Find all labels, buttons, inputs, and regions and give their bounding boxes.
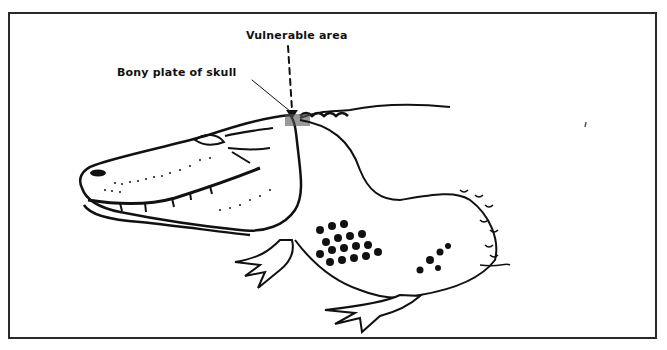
alligator-head: [80, 115, 301, 231]
front-foot: [235, 240, 293, 288]
rear-foot: [325, 295, 420, 332]
vulnerable-area-arrow-line: [288, 46, 292, 110]
bony-plate-leader-line: [252, 80, 291, 112]
alligator-illustration: [0, 0, 667, 350]
bony-plate-label: Bony plate of skull: [117, 66, 237, 79]
vulnerable-area-label: Vulnerable area: [246, 29, 348, 42]
alligator-body: [295, 120, 496, 298]
